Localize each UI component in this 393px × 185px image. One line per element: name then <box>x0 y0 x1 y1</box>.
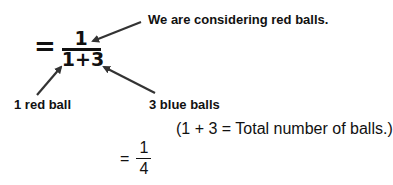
label-blue-balls: 3 blue balls <box>149 97 220 112</box>
result-equals: = <box>120 150 129 168</box>
annotation-red-balls: We are considering red balls. <box>148 12 328 27</box>
total-balls-note: (1 + 3 = Total number of balls.) <box>176 120 393 138</box>
result-denominator: 4 <box>137 160 151 178</box>
arrow-to-blue-balls <box>104 67 155 93</box>
handwritten-equals: = <box>34 33 56 59</box>
arrow-to-numerator <box>93 22 141 41</box>
result-fraction-bar <box>136 158 151 159</box>
label-red-ball: 1 red ball <box>14 97 71 112</box>
handwritten-numerator: 1 <box>66 28 96 48</box>
result-numerator: 1 <box>137 139 151 157</box>
arrow-to-red-ball <box>37 67 61 95</box>
handwritten-denominator: 1+3 <box>60 49 106 69</box>
